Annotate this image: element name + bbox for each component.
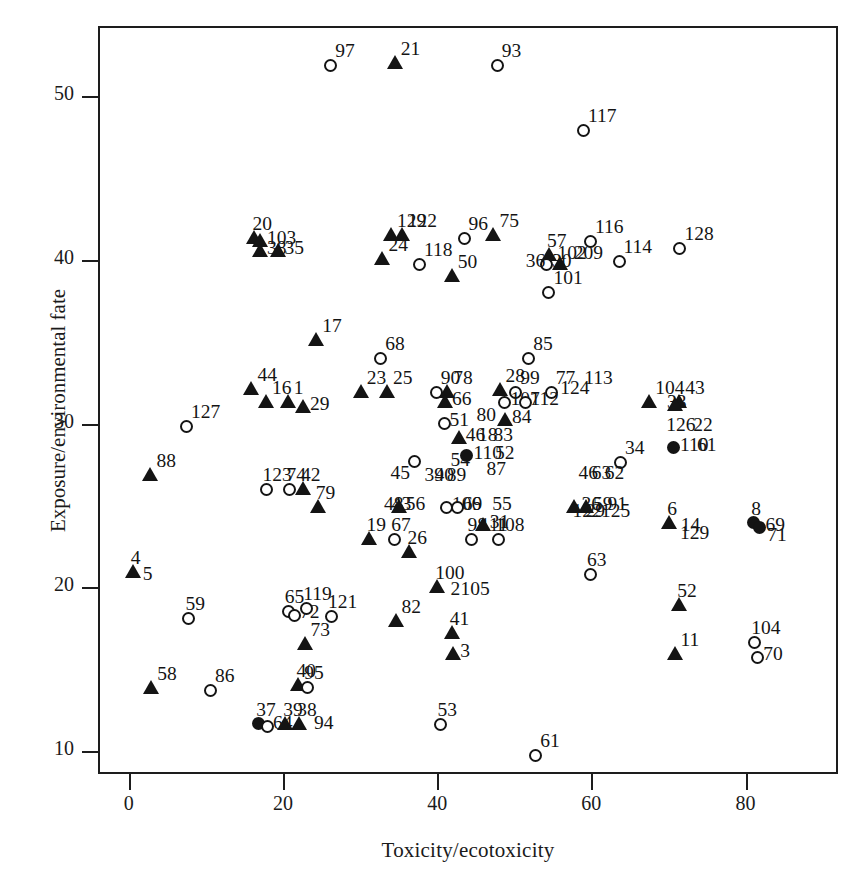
x-tick [283, 774, 285, 790]
point-label: 24 [388, 235, 408, 254]
triangle-marker-icon [295, 399, 311, 413]
x-tick [129, 774, 131, 790]
point-label: 89 [447, 465, 467, 484]
point-label: 1 [294, 378, 304, 397]
point-label: 63 [587, 550, 607, 569]
point-label: 121 [328, 592, 357, 611]
circle-marker-icon [413, 258, 426, 271]
point-label: 78 [453, 368, 473, 387]
point-label: 59 [185, 594, 205, 613]
point-label: 36 [526, 251, 546, 270]
point-label: 99 [520, 368, 540, 387]
point-label: 129 [680, 523, 709, 542]
point-label: 95 [304, 663, 324, 682]
point-label: 105 [461, 579, 490, 598]
x-tick-label: 80 [716, 792, 776, 815]
point-label: 118 [424, 240, 453, 259]
circle-marker-icon [529, 749, 542, 762]
point-label: 82 [402, 597, 422, 616]
plot-area: 9721931172010338351291229675116128571022… [98, 26, 838, 774]
point-label: 2 [451, 579, 461, 598]
y-tick-label: 20 [22, 573, 74, 596]
circle-marker-icon [748, 636, 761, 649]
point-label: 8 [751, 499, 761, 518]
point-label: 3 [460, 641, 470, 660]
y-tick [82, 751, 98, 753]
triangle-marker-icon [667, 397, 683, 411]
circle-marker-icon [577, 124, 590, 137]
point-label: 127 [191, 402, 220, 421]
filled-circle-marker-icon [667, 441, 680, 454]
y-tick [82, 96, 98, 98]
y-tick [82, 424, 98, 426]
x-tick [437, 774, 439, 790]
scatter-plot-figure: 9721931172010338351291229675116128571022… [0, 0, 864, 886]
point-label: 122 [408, 211, 437, 230]
point-label: 87 [487, 459, 507, 478]
point-label: 94 [314, 713, 334, 732]
point-label: 58 [157, 664, 177, 683]
triangle-marker-icon [270, 243, 286, 257]
triangle-marker-icon [451, 430, 467, 444]
point-label: 68 [385, 334, 405, 353]
point-label: 61 [697, 435, 717, 454]
point-label: 61 [540, 731, 560, 750]
triangle-marker-icon [437, 394, 453, 408]
point-label: 34 [625, 438, 645, 457]
point-label: 35 [285, 238, 305, 257]
y-tick-label: 50 [22, 82, 74, 105]
point-label: 41 [450, 609, 470, 628]
x-tick [591, 774, 593, 790]
circle-marker-icon [542, 286, 555, 299]
x-tick-label: 20 [253, 792, 313, 815]
point-label: 43 [685, 378, 705, 397]
point-label: 79 [316, 483, 336, 502]
point-label: 75 [499, 211, 519, 230]
point-label: 29 [310, 394, 330, 413]
point-label: 42 [301, 465, 321, 484]
point-label: 53 [437, 700, 457, 719]
point-label: 6 [667, 499, 677, 518]
point-label: 117 [588, 106, 617, 125]
y-tick [82, 587, 98, 589]
point-label: 114 [624, 237, 653, 256]
circle-marker-icon [434, 718, 447, 731]
triangle-marker-icon [445, 646, 461, 660]
circle-marker-icon [492, 533, 505, 546]
y-tick-label: 30 [22, 410, 74, 433]
point-label: 5 [143, 564, 153, 583]
triangle-marker-icon [391, 499, 407, 513]
circle-marker-icon [458, 232, 471, 245]
point-label: 80 [477, 405, 497, 424]
y-tick-label: 10 [22, 737, 74, 760]
point-label: 11 [681, 630, 700, 649]
point-label: 112 [531, 389, 560, 408]
point-label: 25 [393, 368, 413, 387]
circle-marker-icon [465, 533, 478, 546]
point-label: 4 [131, 548, 141, 567]
point-label: 21 [401, 39, 421, 58]
y-tick [82, 260, 98, 262]
point-label: 128 [684, 224, 713, 243]
point-label: 124 [560, 378, 589, 397]
point-label: 84 [512, 407, 532, 426]
circle-marker-icon [180, 420, 193, 433]
point-label: 71 [767, 525, 787, 544]
y-tick-label: 40 [22, 246, 74, 269]
point-label: 73 [311, 620, 331, 639]
point-label: 86 [215, 666, 235, 685]
point-label: 62 [605, 463, 625, 482]
x-tick-label: 40 [407, 792, 467, 815]
point-label: 83 [494, 425, 514, 444]
point-label: 69 [463, 494, 483, 513]
point-label: 56 [406, 494, 426, 513]
x-tick [746, 774, 748, 790]
point-label: 66 [452, 389, 472, 408]
point-label: 22 [693, 415, 713, 434]
filled-circle-marker-icon [753, 521, 766, 534]
point-label: 70 [763, 644, 783, 663]
point-label: 101 [553, 268, 582, 287]
point-label: 126 [666, 415, 695, 434]
point-label: 209 [574, 243, 603, 262]
point-label: 26 [407, 528, 427, 547]
